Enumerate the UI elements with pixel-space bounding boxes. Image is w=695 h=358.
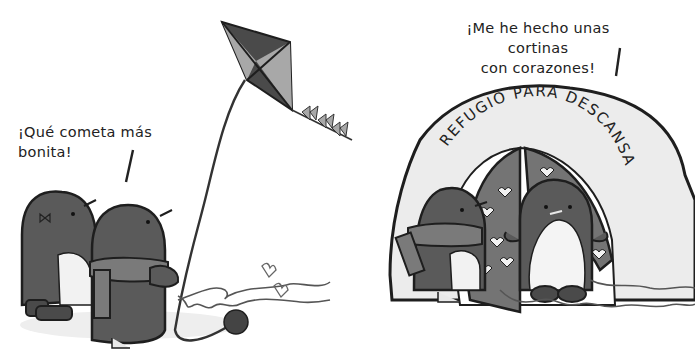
kite-icon [222,22,352,140]
penguin-with-scarf [90,205,178,348]
speech-line-1: ¡Me he hecho unas cortinas [438,18,638,58]
shelter-panel: REFUGIO PARA DESCANSAR ¡M [380,0,695,358]
kite-scene-illustration [0,0,380,358]
speech-line-2: con corazones! [438,58,638,78]
speech-text-shelter: ¡Me he hecho unas cortinas con corazones… [438,18,638,78]
yarn-ball-icon [224,310,248,334]
speech-text-kite: ¡Qué cometa más bonita! [18,122,208,162]
kite-panel: ¡Qué cometa más bonita! [0,0,380,358]
penguin-with-bow [22,192,96,320]
